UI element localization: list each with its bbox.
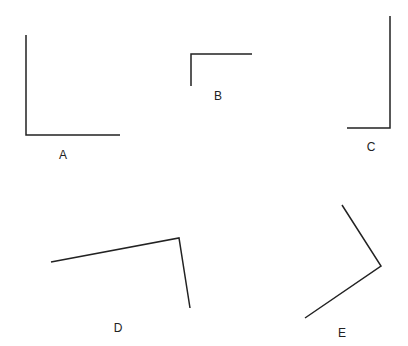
angle-a-label: A	[59, 149, 67, 161]
angle-b-lines	[191, 54, 252, 86]
angle-e-label: E	[338, 327, 346, 339]
angle-b-label: B	[214, 90, 222, 102]
angles-diagram: A B C D E	[0, 0, 408, 346]
angle-a-lines	[26, 35, 120, 135]
angle-c-lines	[347, 16, 390, 128]
angle-d-lines	[51, 238, 190, 308]
angles-svg	[0, 0, 408, 346]
angle-c-label: C	[367, 141, 376, 153]
angle-e-lines	[305, 205, 381, 318]
angle-d-label: D	[114, 322, 123, 334]
